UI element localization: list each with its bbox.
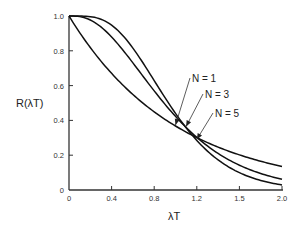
y-tick-label: 0.6 (54, 82, 64, 91)
x-tick-label: 1.2 (192, 194, 202, 203)
x-tick-label: 0.4 (106, 194, 116, 203)
x-tick-label: 2.0 (277, 194, 287, 203)
annotation-label: N = 1 (192, 73, 217, 84)
y-ticks: 00.20.40.60.81.0 (54, 12, 73, 195)
curve-n3 (69, 16, 282, 179)
y-tick-label: 0 (60, 186, 64, 195)
y-tick-label: 0.2 (54, 151, 64, 160)
curve-annotations: N = 1N = 3N = 5 (175, 73, 240, 139)
annotation-label: N = 5 (215, 108, 240, 119)
annotation-leader (176, 78, 191, 125)
y-tick-label: 0.8 (54, 47, 64, 56)
x-tick-label: 0 (67, 194, 71, 203)
y-tick-label: 0.4 (54, 116, 64, 125)
x-tick-label: 1.5 (234, 194, 244, 203)
x-tick-label: 0.8 (149, 194, 159, 203)
x-ticks: 00.40.81.21.52.0 (67, 186, 287, 203)
reliability-chart: 00.40.81.21.52.0 00.20.40.60.81.0 N = 1N… (0, 0, 300, 235)
curve-n5 (69, 16, 282, 185)
x-axis-label: λT (168, 210, 181, 222)
y-axis-label: R(λT) (16, 97, 44, 109)
curves (69, 16, 282, 185)
y-tick-label: 1.0 (54, 12, 64, 21)
axes (69, 16, 283, 190)
curve-n1 (69, 16, 282, 166)
annotation-label: N = 3 (205, 89, 230, 100)
